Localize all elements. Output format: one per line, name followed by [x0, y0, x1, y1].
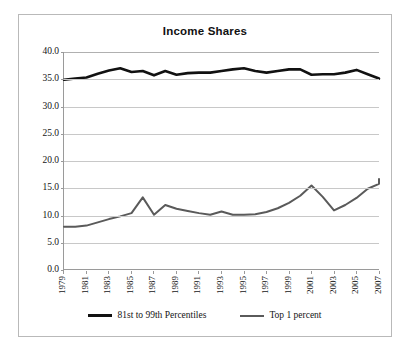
- y-axis-tick-label: 35.0: [42, 75, 59, 85]
- x-tick-mark: [311, 271, 312, 274]
- chart-figure: Income Shares 0.05.010.015.020.025.030.0…: [18, 14, 392, 337]
- y-axis-tick-label: 0.0: [47, 265, 59, 275]
- x-axis-tick-label: 1979: [58, 276, 67, 294]
- gridline-25.0: [64, 134, 379, 135]
- gridline-10.0: [64, 216, 379, 217]
- y-axis-tick-label: 5.0: [47, 238, 59, 248]
- x-tick-mark: [153, 271, 154, 274]
- x-axis-tick-label: 1993: [216, 276, 225, 294]
- x-tick-mark: [221, 271, 222, 274]
- y-tick-mark: [61, 107, 64, 108]
- x-axis-tick-label: 1985: [126, 276, 135, 294]
- x-axis-tick-label: 1995: [239, 276, 248, 294]
- y-axis-tick-label: 30.0: [42, 102, 59, 112]
- legend-label: 81st to 99th Percentiles: [117, 311, 206, 321]
- y-tick-mark: [61, 52, 64, 53]
- chart-title: Income Shares: [19, 25, 391, 37]
- y-tick-mark: [61, 216, 64, 217]
- x-axis-tick-label: 1991: [193, 276, 202, 294]
- y-tick-mark: [61, 134, 64, 135]
- y-axis-tick-label: 10.0: [42, 211, 59, 221]
- y-axis-tick-label: 15.0: [42, 184, 59, 194]
- gridline-20.0: [64, 161, 379, 162]
- x-tick-mark: [334, 271, 335, 274]
- x-tick-mark: [131, 271, 132, 274]
- x-tick-mark: [198, 271, 199, 274]
- legend-entry[interactable]: 81st to 99th Percentiles: [88, 311, 206, 321]
- legend-line-swatch: [240, 315, 264, 317]
- chart-legend: 81st to 99th PercentilesTop 1 percent: [19, 311, 391, 321]
- gridline-15.0: [64, 188, 379, 189]
- x-axis-tick-label: 2007: [374, 276, 383, 294]
- x-tick-mark: [379, 271, 380, 274]
- x-axis-tick-label: 1997: [261, 276, 270, 294]
- x-tick-mark: [86, 271, 87, 274]
- legend-entry[interactable]: Top 1 percent: [240, 311, 321, 321]
- y-tick-mark: [61, 243, 64, 244]
- plot-area: 0.05.010.015.020.025.030.035.040.0: [63, 52, 379, 270]
- x-axis-tick-label: 1983: [103, 276, 112, 294]
- series-line: [64, 179, 379, 227]
- x-axis-tick-label: 2005: [351, 276, 360, 294]
- x-tick-mark: [289, 271, 290, 274]
- x-tick-mark: [244, 271, 245, 274]
- y-axis-tick-label: 40.0: [42, 47, 59, 57]
- gridline-30.0: [64, 107, 379, 108]
- y-tick-mark: [61, 79, 64, 80]
- x-axis-tick-label: 1999: [284, 276, 293, 294]
- gridline-5.0: [64, 243, 379, 244]
- x-tick-mark: [108, 271, 109, 274]
- x-tick-mark: [63, 271, 64, 274]
- x-axis-tick-label: 2003: [329, 276, 338, 294]
- legend-label: Top 1 percent: [269, 311, 321, 321]
- y-tick-mark: [61, 161, 64, 162]
- gridline-40.0: [64, 52, 379, 53]
- x-axis-tick-label: 1981: [81, 276, 90, 294]
- x-tick-mark: [266, 271, 267, 274]
- x-axis-tick-label: 1989: [171, 276, 180, 294]
- x-tick-mark: [176, 271, 177, 274]
- y-axis-tick-label: 25.0: [42, 129, 59, 139]
- gridline-35.0: [64, 79, 379, 80]
- x-axis-tick-label: 2001: [306, 276, 315, 294]
- x-axis-tick-label: 1987: [148, 276, 157, 294]
- legend-line-swatch: [88, 314, 112, 317]
- series-line: [64, 68, 379, 79]
- y-tick-mark: [61, 188, 64, 189]
- y-axis-tick-label: 20.0: [42, 156, 59, 166]
- x-tick-mark: [356, 271, 357, 274]
